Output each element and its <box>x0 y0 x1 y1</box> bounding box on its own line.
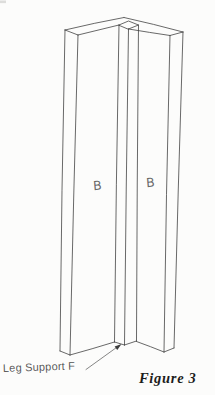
leader-arrow <box>86 344 122 370</box>
technical-drawing: B B Leg Support F Figure 3 <box>0 0 215 395</box>
panel-label-right: B <box>145 175 155 191</box>
figure-drawing: B B Leg Support F Figure 3 <box>0 0 215 395</box>
panel-label-left: B <box>92 178 102 194</box>
leg-support-post-outline <box>115 21 139 345</box>
leader-arrowhead-icon <box>115 344 122 350</box>
left-panel-outline <box>60 18 124 356</box>
callout-label: Leg Support F <box>3 359 76 374</box>
scan-artifact <box>0 1 6 4</box>
figure-caption: Figure 3 <box>138 370 197 386</box>
